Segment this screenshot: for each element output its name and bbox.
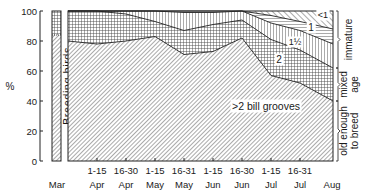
x-tick-top: 16-30 (114, 165, 138, 176)
x-tick-top: 1-15 (261, 165, 280, 176)
bill-groove-age-chart: 020406080100% Breeding birds Mar1-15Apr1… (0, 0, 366, 195)
x-tick-bottom: Jun (234, 179, 249, 190)
y-tick-label: 20 (26, 126, 37, 137)
region-label: <1 (318, 10, 328, 20)
y-axis: 020406080100% (6, 6, 43, 167)
x-tick-bottom: May (146, 179, 164, 190)
old-enough-label: old enough (338, 106, 349, 156)
x-tick-bottom: May (175, 179, 193, 190)
mixed-age-label: mixed (338, 71, 349, 98)
x-tick-top: 1-15 (145, 165, 164, 176)
old-enough-label: to breed (349, 113, 360, 150)
y-tick-label: 0 (32, 156, 37, 167)
y-axis-label: % (6, 81, 15, 92)
x-tick-bottom: Apr (90, 179, 105, 190)
x-tick-top: 16-31 (172, 165, 196, 176)
region-label: 2 (276, 54, 282, 65)
plot-area (68, 11, 333, 161)
x-axis: Mar1-15Apr16-30Apr1-15May16-31May1-15Jun… (49, 158, 341, 190)
right-brackets: immaturemixedageold enoughto breed (336, 11, 360, 161)
y-tick-label: 60 (26, 66, 37, 77)
region-label: >2 bill grooves (232, 100, 300, 112)
x-tick-bottom: Aug (324, 179, 341, 190)
region-label: 1½ (289, 37, 302, 47)
mixed-age-label: age (349, 76, 360, 93)
x-tick-bottom: Apr (119, 179, 134, 190)
x-tick-bottom: Jul (294, 179, 306, 190)
y-tick-label: 40 (26, 96, 37, 107)
x-tick-top: 1-15 (87, 165, 106, 176)
x-tick-top: 16-31 (288, 165, 312, 176)
x-tick-top: 1-15 (203, 165, 222, 176)
y-tick-label: 100 (21, 6, 37, 17)
x-tick-bottom: Jul (265, 179, 277, 190)
y-tick-label: 80 (26, 36, 37, 47)
x-tick-top: 16-30 (230, 165, 254, 176)
x-tick-bottom: Mar (49, 179, 65, 190)
x-tick-bottom: Jun (205, 179, 220, 190)
immature-label: immature (343, 18, 354, 60)
region-label: 1 (308, 22, 314, 33)
